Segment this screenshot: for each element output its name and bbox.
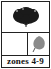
shrub-icon xyxy=(11,5,41,29)
attributes-row xyxy=(2,33,49,56)
plant-form-cell xyxy=(2,2,49,33)
plant-info-card: zones 4-9 xyxy=(1,1,50,68)
foliage-cell xyxy=(28,33,49,55)
hardiness-zones-label: zones 4-9 xyxy=(2,56,49,67)
leaf-icon xyxy=(31,35,47,53)
empty-attribute-cell xyxy=(2,33,28,55)
